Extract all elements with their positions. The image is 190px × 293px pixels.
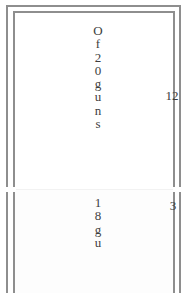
divider-break-left-outer — [6, 187, 9, 192]
row-divider — [15, 189, 173, 190]
scanned-page: O f 2 0 g u n s 12 1 8 g u 3 — [0, 0, 190, 293]
frame-rule-right-inner — [173, 11, 175, 293]
row-top-label-vertical: O f 2 0 g u n s — [78, 24, 118, 130]
row-top-number: 12 — [162, 88, 182, 104]
row-bottom-char: 8 — [95, 209, 102, 222]
row-top-char: u — [95, 90, 102, 103]
row-top-char: f — [96, 37, 100, 50]
frame-rule-left-inner — [13, 11, 15, 293]
row-bottom-label-vertical: 1 8 g u — [78, 196, 118, 249]
table-row: O f 2 0 g u n s — [78, 24, 118, 130]
row-top-char: 0 — [95, 64, 102, 77]
row-top-char: n — [95, 104, 102, 117]
table-row: 1 8 g u — [78, 196, 118, 249]
row-bottom-char: u — [95, 236, 102, 249]
frame-rule-left-outer — [6, 5, 8, 293]
divider-break-right-outer — [179, 187, 182, 192]
row-bottom-char: 1 — [95, 196, 102, 209]
frame-rule-top-inner — [14, 11, 174, 13]
row-top-char: g — [95, 77, 102, 90]
frame-rule-right-outer — [179, 5, 181, 293]
divider-break-left-inner — [13, 187, 16, 192]
row-top-char: 2 — [95, 51, 102, 64]
row-bottom-number: 3 — [163, 198, 183, 214]
frame-rule-top-outer — [6, 5, 181, 7]
row-bottom-char: g — [95, 223, 102, 236]
row-top-char: O — [93, 24, 102, 37]
row-top-char: s — [95, 117, 100, 130]
divider-break-right-inner — [173, 187, 176, 192]
